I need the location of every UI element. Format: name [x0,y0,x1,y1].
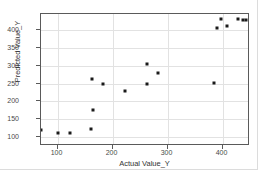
y-tick-mark [36,118,40,119]
scatter-plot-figure: 100150200250300350400 100200300400 Actua… [0,0,258,170]
y-tick-mark [36,65,40,66]
y-axis-title: Predicted Value_Y [13,2,22,102]
x-tick-label: 400 [216,149,228,156]
y-tick-mark [36,100,40,101]
y-tick-mark [36,83,40,84]
y-tick-label: 150 [0,115,19,122]
y-tick-mark [36,136,40,137]
x-tick-label: 200 [106,149,118,156]
x-axis-title: Actual Value_Y [40,159,249,168]
y-axis-ticks: 100150200250300350400 [0,0,273,183]
y-tick-label: 100 [0,133,19,140]
x-tick-label: 300 [161,149,173,156]
y-tick-mark [36,47,40,48]
y-tick-mark [36,29,40,30]
x-tick-label: 100 [51,149,63,156]
